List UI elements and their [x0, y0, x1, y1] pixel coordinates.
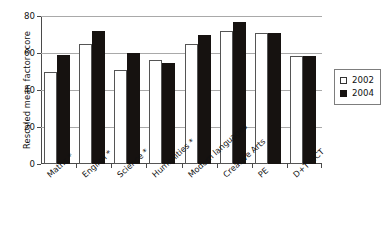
bar-group: [111, 16, 146, 164]
y-tick-label: 60: [24, 48, 35, 58]
bar-2002: [114, 70, 127, 164]
cropped-title-remnant: [120, 0, 280, 3]
bar-2002: [79, 44, 92, 164]
bar-2002: [44, 72, 57, 165]
y-tick-label: 40: [24, 85, 35, 95]
bar-group: [76, 16, 111, 164]
legend-item-2002: 2002: [340, 74, 374, 87]
bar-2004: [162, 63, 175, 164]
legend: 2002 2004: [334, 69, 381, 105]
x-axis-label: PE: [256, 165, 270, 179]
legend-item-2004: 2004: [340, 87, 374, 100]
bar-2004: [57, 55, 70, 164]
x-axis-labels: Maths *English *Science *Humanities *Mod…: [41, 164, 341, 252]
bar-2004: [233, 22, 246, 164]
bar-2004: [92, 31, 105, 164]
y-tick-label: 80: [24, 11, 35, 21]
legend-label-2002: 2002: [352, 76, 374, 85]
bar-2004: [268, 33, 281, 164]
bar-2002: [290, 56, 303, 164]
y-tick-label: 20: [24, 122, 35, 132]
bar-chart: Rescaled mean factor score 020406080 Mat…: [0, 0, 392, 252]
bar-group: [41, 16, 76, 164]
bar-2002: [149, 60, 162, 164]
bar-2004: [127, 53, 140, 164]
bar-group: [146, 16, 181, 164]
legend-swatch-2002-icon: [340, 77, 347, 84]
legend-swatch-2004-icon: [340, 90, 347, 97]
y-tick-label: 0: [30, 159, 35, 169]
bar-2004: [303, 56, 316, 164]
bar-group: [287, 16, 322, 164]
legend-label-2004: 2004: [352, 89, 374, 98]
bar-2004: [198, 35, 211, 164]
